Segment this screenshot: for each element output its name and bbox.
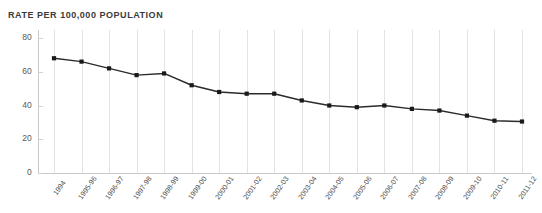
- data-point-marker[interactable]: [217, 90, 221, 94]
- data-point-marker[interactable]: [355, 105, 359, 109]
- data-point-marker[interactable]: [520, 119, 524, 123]
- data-point-marker[interactable]: [134, 73, 138, 77]
- data-point-marker[interactable]: [162, 71, 166, 75]
- data-point-marker[interactable]: [300, 98, 304, 102]
- data-point-marker[interactable]: [437, 108, 441, 112]
- data-point-marker[interactable]: [272, 92, 276, 96]
- data-point-marker[interactable]: [245, 92, 249, 96]
- data-series: [38, 30, 532, 181]
- y-axis-tick-label: 60: [6, 67, 32, 76]
- y-axis-tick-label: 40: [6, 101, 32, 110]
- data-point-marker[interactable]: [52, 56, 56, 60]
- data-point-marker[interactable]: [465, 114, 469, 118]
- data-point-marker[interactable]: [410, 107, 414, 111]
- y-axis-tick-label: 80: [6, 33, 32, 42]
- data-point-marker[interactable]: [382, 103, 386, 107]
- y-axis-tick-label: 0: [6, 168, 32, 177]
- chart-container: RATE PER 100,000 POPULATION 020406080 19…: [0, 0, 542, 213]
- data-point-marker[interactable]: [107, 66, 111, 70]
- y-axis-labels: 020406080: [4, 0, 32, 213]
- y-axis-tick-label: 20: [6, 134, 32, 143]
- data-point-marker[interactable]: [492, 119, 496, 123]
- plot-area: [38, 30, 532, 181]
- x-axis-labels: 19941995-961996-971997-981998-991999-002…: [38, 184, 532, 213]
- data-point-marker[interactable]: [190, 83, 194, 87]
- series-line: [54, 58, 522, 121]
- data-point-marker[interactable]: [327, 103, 331, 107]
- data-point-marker[interactable]: [79, 60, 83, 64]
